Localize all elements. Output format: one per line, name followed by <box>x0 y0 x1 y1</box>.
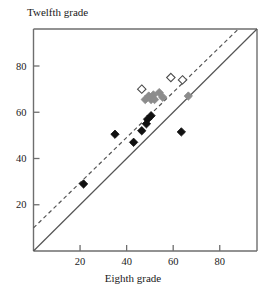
data-point-filled-diamond <box>138 127 146 135</box>
y-axis-tick-label: 80 <box>16 61 27 72</box>
plot-canvas: 2040608020406080 <box>0 0 266 294</box>
data-point-filled-diamond <box>79 180 87 188</box>
x-axis-tick-label: 80 <box>215 256 226 267</box>
data-point-filled-diamond <box>129 138 137 146</box>
data-point-open-diamond <box>138 85 146 93</box>
regression-line <box>34 29 239 228</box>
identity-line <box>34 29 258 251</box>
x-axis-title: Eighth grade <box>0 272 266 284</box>
x-axis-tick-label: 40 <box>121 256 132 267</box>
reference-lines <box>34 29 258 251</box>
x-axis-tick-label: 20 <box>75 256 86 267</box>
data-point-open-diamond <box>178 76 186 84</box>
y-axis-tick-label: 20 <box>16 199 27 210</box>
x-axis-tick-label: 60 <box>168 256 179 267</box>
data-point-open-diamond <box>167 73 175 81</box>
data-point-filled-diamond <box>177 128 185 136</box>
y-axis-tick-label: 40 <box>16 153 27 164</box>
data-point-gray-diamond <box>184 92 192 100</box>
y-axis-tick-label: 60 <box>16 107 27 118</box>
data-point-filled-diamond <box>111 130 119 138</box>
scatter-plot-figure: Twelfth grade 2040608020406080 Eighth gr… <box>0 0 266 294</box>
